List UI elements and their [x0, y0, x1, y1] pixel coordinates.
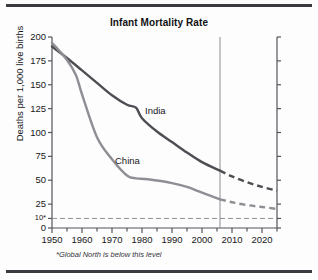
x-axis-tick-label: 1970 [95, 234, 129, 245]
y-axis-tick-label: 25 [4, 198, 46, 209]
series-layer [52, 43, 277, 209]
chart-footnote: *Global North is below this level [56, 250, 161, 259]
x-axis-tick-label: 2000 [185, 234, 219, 245]
series-line-india [52, 47, 220, 171]
y-axis-tick-label: 75 [4, 150, 46, 161]
series-projection-china [220, 199, 277, 209]
y-axis-tick-label: 175 [4, 55, 46, 66]
y-axis-tick-label: 150 [4, 79, 46, 90]
x-axis-tick-label: 1980 [125, 234, 159, 245]
x-axis-tick-label: 1950 [35, 234, 69, 245]
y-axis-tick-label: 50 [4, 174, 46, 185]
x-axis-tick-label: 2020 [245, 234, 279, 245]
series-label-india: India [145, 105, 166, 116]
y-axis-tick-label: 0 [4, 222, 46, 233]
x-axis-tick-label: 1960 [65, 234, 99, 245]
x-axis-tick-label: 2010 [215, 234, 249, 245]
series-label-china: China [115, 155, 140, 166]
y-axis-tick-label: 10* [4, 213, 46, 222]
series-projection-india [220, 171, 277, 191]
x-axis-tick-label: 1990 [155, 234, 189, 245]
chart-figure: Infant Mortality Rate Deaths per 1,000 l… [0, 0, 318, 280]
axes-layer [48, 37, 281, 233]
y-axis-tick-label: 200 [4, 31, 46, 42]
y-axis-tick-label: 100 [4, 127, 46, 138]
y-axis-tick-label: 125 [4, 103, 46, 114]
